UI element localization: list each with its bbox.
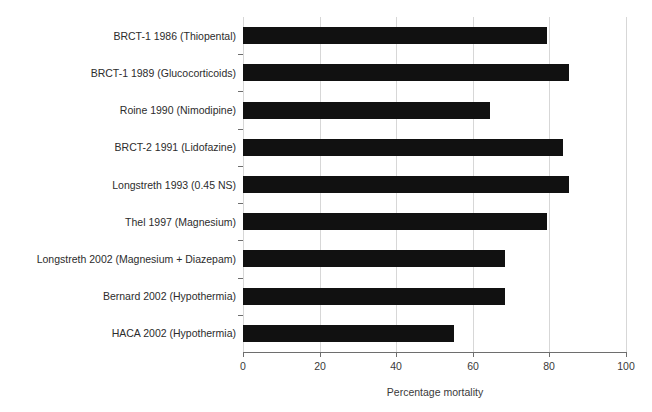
x-tick-60 (473, 352, 474, 357)
bar (243, 288, 505, 305)
x-tick-label: 60 (467, 360, 479, 372)
category-label: BRCT-1 1986 (Thiopental) (113, 30, 236, 42)
category-labels: BRCT-1 1986 (Thiopental)BRCT-1 1989 (Glu… (0, 0, 236, 412)
x-tick-label: 40 (390, 360, 402, 372)
y-tick (238, 315, 243, 316)
x-tick-label: 100 (617, 360, 635, 372)
y-tick (238, 203, 243, 204)
x-tick-label: 80 (543, 360, 555, 372)
bar (243, 102, 490, 119)
gridline-100 (626, 17, 627, 352)
bar (243, 64, 569, 81)
category-label: BRCT-1 1989 (Glucocorticoids) (91, 67, 236, 79)
bar (243, 176, 569, 193)
category-label: Bernard 2002 (Hypothermia) (103, 290, 236, 302)
x-axis-title: Percentage mortality (243, 386, 627, 398)
category-label: BRCT-2 1991 (Lidofazine) (115, 141, 236, 153)
category-label: Thel 1997 (Magnesium) (125, 216, 236, 228)
x-tick-80 (549, 352, 550, 357)
x-tick-label: 20 (314, 360, 326, 372)
y-tick (238, 278, 243, 279)
bar (243, 213, 547, 230)
x-tick-0 (243, 352, 244, 357)
bar (243, 139, 563, 156)
bar (243, 250, 505, 267)
category-label: HACA 2002 (Hypothermia) (112, 327, 236, 339)
category-label: Longstreth 1993 (0.45 NS) (112, 179, 236, 191)
bar (243, 27, 547, 44)
x-tick-label: 0 (240, 360, 246, 372)
bar-chart: 020406080100 BRCT-1 1986 (Thiopental)BRC… (0, 0, 652, 412)
y-tick (238, 91, 243, 92)
y-tick (238, 240, 243, 241)
y-tick (238, 54, 243, 55)
x-tick-20 (320, 352, 321, 357)
bar (243, 325, 454, 342)
x-tick-40 (396, 352, 397, 357)
category-label: Roine 1990 (Nimodipine) (120, 104, 236, 116)
y-tick (238, 129, 243, 130)
category-label: Longstreth 2002 (Magnesium + Diazepam) (37, 253, 236, 265)
y-tick (238, 166, 243, 167)
x-tick-100 (626, 352, 627, 357)
x-axis-line (243, 352, 627, 353)
